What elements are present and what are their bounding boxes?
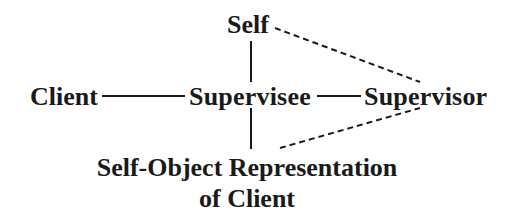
edge-self-supervisor-dashed [275,28,420,82]
node-supervisee: Supervisee [189,84,311,110]
supervision-diagram: Self Client Supervisee Supervisor Self-O… [0,0,508,217]
node-self-object-representation: Self-Object Representation of Client [86,152,408,214]
self-object-label-line2: of Client [86,183,408,214]
edge-selfobject-supervisor-dashed [280,108,420,148]
node-client: Client [30,84,98,110]
node-supervisor: Supervisor [364,84,487,110]
self-object-label-line1: Self-Object Representation [86,152,408,183]
node-self: Self [227,12,269,38]
